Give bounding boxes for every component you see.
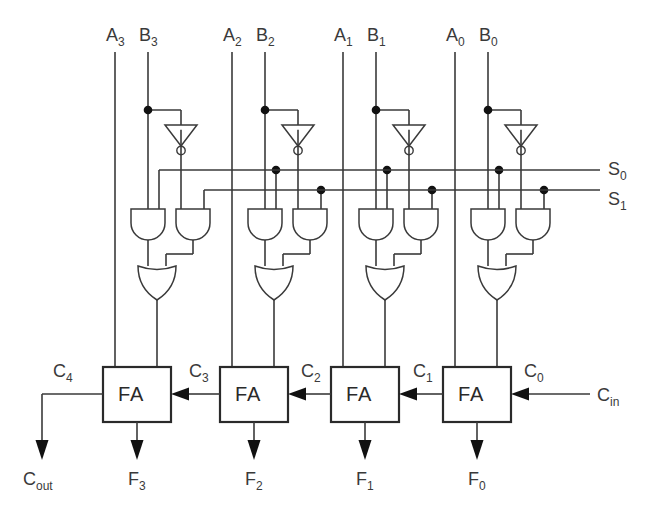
- input-label-a0: A0: [446, 26, 465, 48]
- and-gate-2a: [248, 209, 282, 240]
- junction-dot: [261, 106, 270, 115]
- fa-label-3: FA: [118, 383, 144, 406]
- sum-label-f2: F2: [245, 470, 263, 492]
- input-label-a1: A1: [334, 26, 353, 48]
- input-label-b0: B0: [479, 26, 498, 48]
- carry-label-c4: C4: [53, 362, 73, 384]
- junction-dot: [372, 106, 381, 115]
- bit-slice-2: [232, 52, 327, 367]
- fa-label-2: FA: [235, 383, 261, 406]
- select-label-s0: S0: [608, 160, 627, 182]
- select-label-s1: S1: [608, 190, 627, 212]
- fa-label-1: FA: [346, 383, 372, 406]
- and-gate-3b: [176, 209, 210, 240]
- bit-slice-1: [343, 52, 438, 367]
- input-label-b2: B2: [256, 26, 275, 48]
- input-label-b1: B1: [367, 26, 386, 48]
- sum-label-f1: F1: [356, 470, 374, 492]
- and-gate-1b: [404, 209, 438, 240]
- carry-label-c2: C2: [301, 362, 321, 384]
- sum-label-f3: F3: [128, 470, 146, 492]
- sum-label-f0: F0: [468, 470, 486, 492]
- fa-label-0: FA: [458, 383, 484, 406]
- input-label-a2: A2: [223, 26, 242, 48]
- carry-label-c0: C0: [524, 362, 544, 384]
- and-gate-2b: [293, 209, 327, 240]
- junction-dot: [144, 106, 153, 115]
- and-gate-3a: [131, 209, 165, 240]
- or-gate-3: [138, 266, 176, 300]
- or-gate-2: [255, 266, 293, 300]
- input-label-b3: B3: [139, 26, 158, 48]
- and-gate-0a: [471, 209, 505, 240]
- carry-label-c3: C3: [189, 362, 209, 384]
- and-gate-1a: [359, 209, 393, 240]
- carry-in-label: Cin: [597, 386, 619, 408]
- input-label-a3: A3: [106, 26, 125, 48]
- or-gate-0: [478, 266, 516, 300]
- bit-slice-3: [115, 52, 210, 367]
- or-gate-1: [366, 266, 404, 300]
- carry-label-c1: C1: [413, 362, 433, 384]
- bit-slice-0: [455, 52, 550, 367]
- sum-outputs: [131, 422, 484, 460]
- and-gate-0b: [516, 209, 550, 240]
- carry-out-label: Cout: [23, 470, 53, 492]
- circuit-diagram: A3 B3 A2 B2 A1 B1 A0 B0 S0 S1 FA FA FA F…: [0, 0, 654, 517]
- circuit-canvas: [0, 0, 654, 517]
- junction-dot: [484, 106, 493, 115]
